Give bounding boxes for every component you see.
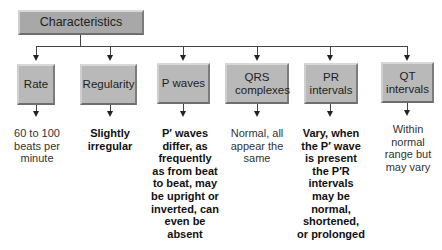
- description-pr-intervals: Vary, when the P′ wave is present the P′…: [297, 127, 365, 240]
- category-label: Rate: [24, 78, 48, 91]
- category-box-p-waves: P waves: [157, 63, 210, 104]
- horizontal-bus-line: [36, 46, 408, 47]
- category-box-pr-intervals: PR intervals: [304, 63, 358, 104]
- arrow-down-icon: [327, 111, 333, 117]
- category-label: QT intervals: [386, 70, 430, 96]
- arrow-down-icon: [107, 111, 113, 117]
- arrow-down-icon: [180, 55, 186, 61]
- arrow-down-icon: [33, 55, 39, 61]
- arrow-down-icon: [180, 111, 186, 117]
- arrow-down-icon: [254, 55, 260, 61]
- category-box-regularity: Regularity: [80, 64, 137, 105]
- description-qrs-complexes: Normal, all appear the same: [229, 127, 285, 165]
- category-box-qrs-complexes: QRS complexes: [225, 63, 289, 104]
- root-node-characteristics: Characteristics: [18, 10, 144, 35]
- description-regularity: Slightly irregular: [80, 127, 140, 152]
- category-label: QRS complexes: [235, 71, 279, 97]
- arrow-down-icon: [254, 111, 260, 117]
- arrow-down-icon: [404, 55, 410, 61]
- category-label: P waves: [162, 77, 205, 90]
- root-stem-line: [80, 35, 81, 46]
- arrow-down-icon: [33, 111, 39, 117]
- arrow-down-icon: [107, 55, 113, 61]
- category-box-rate: Rate: [17, 64, 55, 105]
- arrow-down-icon: [327, 55, 333, 61]
- description-qt-intervals: Within normal range but may vary: [383, 123, 433, 173]
- category-box-qt-intervals: QT intervals: [381, 62, 434, 103]
- category-label: Regularity: [83, 78, 135, 91]
- arrow-down-icon: [404, 110, 410, 116]
- category-label: PR intervals: [309, 71, 353, 97]
- root-node-label: Characteristics: [40, 16, 123, 29]
- description-p-waves: P′ waves differ, as frequently as from b…: [151, 127, 219, 240]
- description-rate: 60 to 100 beats per minute: [10, 127, 64, 165]
